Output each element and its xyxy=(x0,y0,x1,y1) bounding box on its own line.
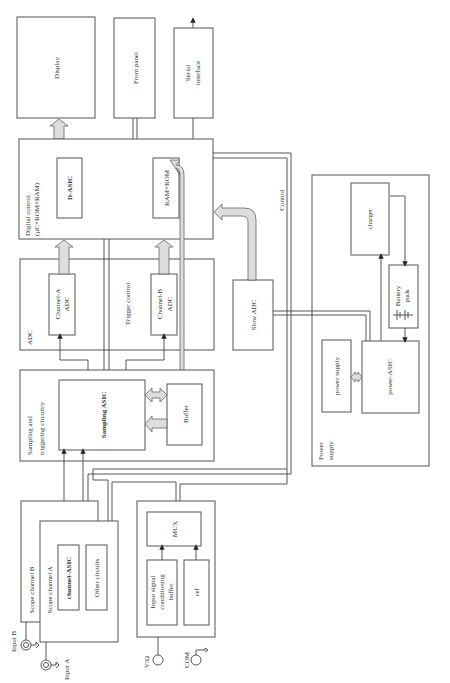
sampling-label-1: Sampling and xyxy=(26,416,34,455)
channel-a-adc-block xyxy=(49,274,75,335)
scope-channel-b-label: Scope channel B xyxy=(28,566,36,613)
front-panel-label: Front panel xyxy=(132,52,140,84)
display-label: Display xyxy=(53,57,61,79)
other-circuits-label: Other circuits xyxy=(93,559,101,598)
serial-interface-label-1: Serial xyxy=(184,65,192,81)
slow-adc-bus-arrow xyxy=(214,204,256,280)
channel-a-adc-label-1: Channel-A xyxy=(54,289,62,320)
com-label: COM xyxy=(183,651,191,668)
digital-control-label-1: Digital control xyxy=(24,195,32,236)
buffer-label: Buffer xyxy=(182,404,190,423)
digital-control-label-2: (µC+ROM+RAM) xyxy=(33,182,41,236)
input-b-label: Input B xyxy=(10,630,18,652)
power-supply-label-2: supply xyxy=(327,441,335,460)
ram-rom-label: RAM+ROM xyxy=(163,169,171,206)
com-ground-icon xyxy=(196,648,208,655)
battery-label-2: pack xyxy=(403,289,411,303)
input-a-ground-icon xyxy=(51,662,59,668)
input-buffer-label-3: buffer xyxy=(167,583,175,601)
channel-a-adc-label-2: ADC xyxy=(63,296,71,311)
input-b-connector-inner xyxy=(24,643,29,648)
serial-interface-label-2: interface xyxy=(194,61,202,85)
sampling-label-2: triggering circuitry xyxy=(38,401,46,455)
channel-b-adc-label-1: Channel-B xyxy=(156,289,164,320)
power-asic-label: power-ASIC xyxy=(386,359,394,395)
input-a-connector-inner xyxy=(44,663,49,668)
input-a-label: Input A xyxy=(63,659,71,680)
power-supply-inner-label: power supply xyxy=(333,357,341,395)
ref-label: ref xyxy=(193,587,201,595)
display-bus-arrow xyxy=(50,119,68,139)
mux-label: MUX xyxy=(171,521,179,537)
sampling-asic-label: Sampling ASIC xyxy=(100,392,108,439)
input-b-ground-icon xyxy=(31,642,39,648)
v-ohm-label: V/Ω xyxy=(143,656,151,668)
battery-label-1: Battery xyxy=(394,285,402,306)
block-diagram: Display Front panel Serial interface Dig… xyxy=(0,0,450,683)
control-label: Control xyxy=(278,189,286,210)
v-ohm-terminal-icon[interactable] xyxy=(153,655,163,665)
input-buffer-label-1: Input signal xyxy=(149,575,157,608)
input-buffer-label-2: conditioning xyxy=(158,574,166,610)
charger-label: charger xyxy=(366,208,374,230)
slow-adc-label: Slow ADC xyxy=(250,299,258,330)
com-terminal-icon[interactable] xyxy=(191,655,201,665)
scope-channel-a-label: Scope channel A xyxy=(46,566,54,613)
adc-label: ADC xyxy=(26,330,34,345)
channel-asic-label: channel-ASIC xyxy=(65,557,73,599)
channel-b-adc-label-2: ADC xyxy=(166,296,174,311)
trigger-control-label: Trigger control xyxy=(124,283,132,325)
d-asic-label: D-ASIC xyxy=(66,176,74,200)
power-supply-label-1: Power xyxy=(317,441,325,460)
